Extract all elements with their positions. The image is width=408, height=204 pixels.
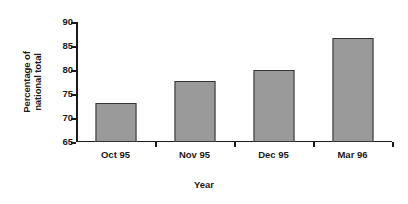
y-axis-title-line-1: Percentage of xyxy=(21,51,32,113)
x-axis-title: Year xyxy=(0,180,408,190)
bar[interactable] xyxy=(174,81,215,142)
bar-series xyxy=(76,22,392,142)
x-tick-mark xyxy=(392,142,394,147)
bar-slot xyxy=(234,22,313,142)
y-tick-label: 80 xyxy=(62,65,73,75)
y-tick-label: 75 xyxy=(62,89,73,99)
y-tick-label: 70 xyxy=(62,113,73,123)
x-category-label: Nov 95 xyxy=(179,150,210,160)
bar[interactable] xyxy=(95,103,136,142)
x-category-label: Oct 95 xyxy=(101,150,130,160)
y-axis-title-line-2: national total xyxy=(32,51,43,113)
bar-chart: Percentage of national total 65707580859… xyxy=(0,0,408,204)
y-tick-label: 90 xyxy=(62,17,73,27)
x-tick-mark xyxy=(155,142,157,147)
bar-slot xyxy=(313,22,392,142)
y-tick-label: 65 xyxy=(62,137,73,147)
plot-area: 657075808590 xyxy=(76,22,392,142)
bar-slot xyxy=(155,22,234,142)
bar[interactable] xyxy=(332,38,373,142)
y-tick-label: 85 xyxy=(62,41,73,51)
x-category-label: Dec 95 xyxy=(258,150,289,160)
x-tick-mark xyxy=(234,142,236,147)
bar[interactable] xyxy=(253,70,294,142)
x-category-label: Mar 96 xyxy=(337,150,367,160)
x-tick-mark xyxy=(313,142,315,147)
bar-slot xyxy=(76,22,155,142)
